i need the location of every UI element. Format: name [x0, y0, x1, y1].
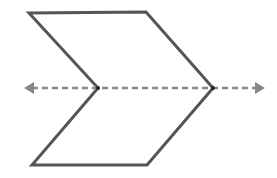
vertex-left-inner [96, 86, 100, 90]
chevron-diagram [0, 0, 277, 178]
diagram-canvas [0, 0, 277, 178]
arrowhead-right-icon [255, 82, 265, 94]
vertex-right-tip [211, 86, 215, 90]
arrowhead-left-icon [24, 82, 34, 94]
